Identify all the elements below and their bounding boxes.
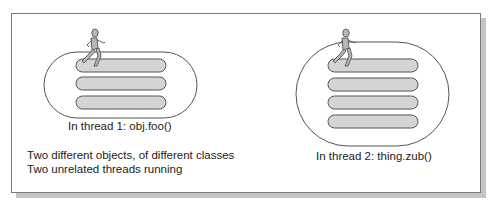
- note-line-1: Two different objects, of different clas…: [27, 149, 234, 161]
- lane-3: [328, 96, 418, 109]
- thread-2-caption: In thread 2: thing.zub(): [316, 150, 432, 162]
- lane-3: [76, 96, 166, 109]
- lane-2: [328, 78, 418, 91]
- lane-1: [328, 59, 418, 72]
- object-2-track: [296, 42, 449, 146]
- thread-1-caption: In thread 1: obj.foo(): [68, 120, 172, 132]
- note-line-2: Two unrelated threads running: [27, 163, 182, 175]
- lane-1: [76, 59, 166, 72]
- lane-4: [328, 115, 418, 128]
- object-1-track: [44, 52, 197, 118]
- lane-2: [76, 77, 166, 90]
